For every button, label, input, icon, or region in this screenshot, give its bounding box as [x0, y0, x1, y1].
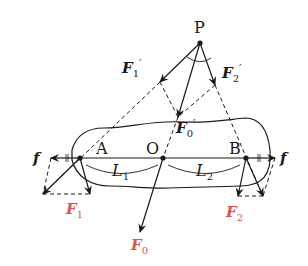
label-l1: L1	[111, 161, 129, 182]
label-a: A	[95, 139, 108, 158]
label-f-right: f	[279, 149, 289, 167]
vector-f0	[140, 158, 163, 232]
point-o	[160, 155, 165, 160]
vector-f2-prime	[200, 43, 215, 85]
point-b	[243, 155, 248, 160]
label-f0: F0	[130, 236, 148, 256]
label-b: B	[229, 139, 241, 158]
label-f2-prime: F2′	[221, 62, 242, 84]
vector-f2	[238, 158, 246, 196]
vector-f1-resultant	[43, 158, 80, 194]
label-p: P	[194, 18, 205, 37]
vector-f2-resultant	[246, 158, 263, 196]
label-f1-prime: F1′	[121, 57, 142, 79]
label-f1: F1	[65, 200, 83, 220]
point-p	[197, 40, 202, 45]
angle-arc-p	[187, 57, 211, 62]
label-f-left: f	[32, 149, 42, 167]
force-diagram: P A O B F1′ F2′ F0′ f f F1 F2 F0 L1 L2	[0, 0, 308, 266]
point-a	[77, 155, 82, 160]
label-l2: L2	[195, 161, 213, 182]
label-f2: F2	[225, 203, 243, 223]
label-o: O	[146, 139, 159, 158]
label-f0-prime: F0′	[175, 117, 196, 139]
